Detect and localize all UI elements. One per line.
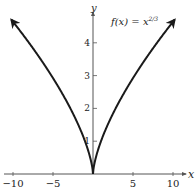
y-tick-label: 2	[84, 103, 90, 113]
x-ticks: −10−5510	[2, 172, 179, 189]
y-axis-label: y	[90, 2, 97, 13]
function-label: f(x) = x2/3	[110, 15, 158, 27]
y-tick-label: 3	[84, 71, 90, 81]
y-ticks: 1234	[84, 38, 97, 146]
function-graph: −10−5510 1234 x y f(x) = x2/3	[0, 0, 195, 192]
y-tick-label: 4	[84, 38, 90, 48]
x-tick-label: 5	[130, 178, 136, 189]
x-tick-label: 10	[167, 178, 180, 189]
function-exponent: 2/3	[148, 15, 159, 22]
x-tick-label: −5	[46, 178, 61, 189]
x-tick-label: −10	[2, 178, 23, 189]
x-axis-label: x	[188, 168, 195, 181]
